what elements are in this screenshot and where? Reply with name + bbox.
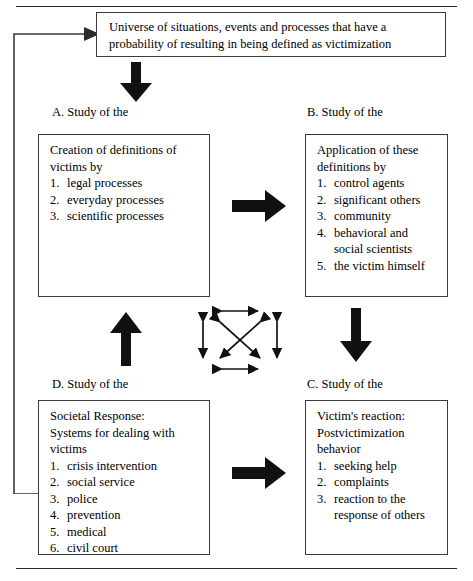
quadrant-b-box: Application of these definitions by 1. c… (305, 134, 448, 297)
quadrant-c-list: 1. seeking help 2. complaints 3. reactio… (317, 458, 438, 524)
quadrant-d-box: Societal Response: Systems for dealing w… (38, 400, 210, 555)
quadrant-d-list: 1. crisis intervention 2. social service… (50, 458, 200, 557)
list-item-label: everyday processes (67, 193, 164, 207)
list-item-label: control agents (334, 176, 404, 190)
arrow-right-icon-d-to-c (232, 456, 287, 490)
quadrant-c-heading: Victim's reaction: Postvictimization beh… (317, 408, 438, 458)
list-item-number: 3. (50, 208, 59, 225)
list-item-label: scientific processes (67, 209, 164, 223)
list-item: 1. control agents (317, 175, 438, 192)
list-item-number: 4. (50, 507, 59, 524)
list-item-label: the victim himself (334, 259, 425, 273)
list-item-label: reaction to the response of others (334, 492, 425, 523)
quadrant-c-box: Victim's reaction: Postvictimization beh… (305, 400, 448, 555)
list-item-number: 1. (317, 175, 326, 192)
list-item: 1. seeking help (317, 458, 438, 475)
arrow-right-icon-a-to-b (232, 189, 287, 223)
list-item-number: 3. (317, 208, 326, 225)
bottom-divider-rule (16, 568, 457, 569)
list-item: 5. the victim himself (317, 258, 438, 275)
list-item-number: 2. (50, 192, 59, 209)
list-item-number: 3. (50, 491, 59, 508)
arrow-up-icon-d-to-a (108, 312, 144, 366)
list-item: 1. crisis intervention (50, 458, 200, 475)
quadrant-a-heading: Creation of definitions of victims by (50, 142, 200, 175)
quadrant-b-heading: Application of these definitions by (317, 142, 438, 175)
top-divider-rule (16, 6, 457, 7)
list-item: 2. significant others (317, 192, 438, 209)
quadrant-c-caption: C. Study of the (307, 377, 383, 392)
quadrant-a-list: 1. legal processes 2. everyday processes… (50, 175, 200, 225)
list-item: 3. scientific processes (50, 208, 200, 225)
arrow-down-icon-b-to-c (338, 308, 374, 362)
list-item: 2. everyday processes (50, 192, 200, 209)
list-item-label: community (334, 209, 391, 223)
quadrant-d-heading: Societal Response: Systems for dealing w… (50, 408, 200, 458)
list-item-label: complaints (334, 475, 389, 489)
list-item-number: 4. (317, 225, 326, 242)
list-item-number: 2. (317, 474, 326, 491)
list-item: 6. civil court (50, 540, 200, 557)
quadrant-a-caption: A. Study of the (52, 105, 128, 120)
list-item: 3. reaction to the response of others (317, 491, 438, 524)
victimization-process-diagram: Universe of situations, events and proce… (0, 0, 473, 581)
list-item-label: social service (67, 475, 135, 489)
center-arrow-cluster (196, 305, 284, 375)
list-item-number: 3. (317, 491, 326, 508)
quadrant-a-box: Creation of definitions of victims by 1.… (38, 134, 210, 297)
list-item: 2. social service (50, 474, 200, 491)
list-item-label: medical (67, 525, 107, 539)
list-item-number: 2. (317, 192, 326, 209)
list-item: 3. community (317, 208, 438, 225)
list-item-number: 5. (317, 258, 326, 275)
list-item-label: behavioral and social scientists (334, 226, 412, 257)
list-item-number: 5. (50, 524, 59, 541)
list-item-number: 1. (317, 458, 326, 475)
list-item-label: legal processes (67, 176, 142, 190)
universe-box-text: Universe of situations, events and proce… (97, 13, 445, 59)
list-item-number: 1. (50, 458, 59, 475)
quadrant-d-caption: D. Study of the (52, 377, 128, 392)
list-item: 4. behavioral and social scientists (317, 225, 438, 258)
arrow-down-icon-universe-to-a (118, 62, 154, 102)
list-item-label: significant others (334, 193, 420, 207)
list-item: 3. police (50, 491, 200, 508)
list-item-label: civil court (67, 541, 118, 555)
list-item-label: police (67, 492, 98, 506)
universe-box: Universe of situations, events and proce… (96, 12, 446, 57)
list-item-number: 2. (50, 474, 59, 491)
list-item-label: prevention (67, 508, 120, 522)
list-item: 5. medical (50, 524, 200, 541)
list-item-label: seeking help (334, 459, 397, 473)
list-item-number: 1. (50, 175, 59, 192)
list-item-label: crisis intervention (67, 459, 157, 473)
list-item: 4. prevention (50, 507, 200, 524)
list-item-number: 6. (50, 540, 59, 557)
quadrant-b-list: 1. control agents 2. significant others … (317, 175, 438, 274)
list-item: 1. legal processes (50, 175, 200, 192)
list-item: 2. complaints (317, 474, 438, 491)
quadrant-b-caption: B. Study of the (307, 105, 383, 120)
